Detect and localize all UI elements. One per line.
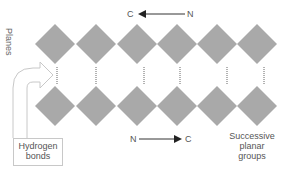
bottom-diamond-6: [237, 86, 277, 126]
arrow-right-head: [174, 135, 182, 143]
planes-label: Planes: [4, 28, 14, 56]
top-arrow-n-label: N: [187, 9, 194, 19]
successive-label-line2: planar: [222, 141, 282, 151]
hydrogen-bonds-label: Hydrogen bonds: [13, 141, 63, 161]
hydrogen-label-line2: bonds: [13, 151, 63, 161]
hydrogen-label-line1: Hydrogen: [13, 141, 63, 151]
successive-label-line3: groups: [222, 151, 282, 161]
top-diamond-6: [237, 24, 277, 64]
top-diamond-5: [197, 24, 237, 64]
bottom-diamond-1: [35, 86, 75, 126]
top-arrow-c-label: C: [127, 9, 134, 19]
top-diamond-3: [117, 24, 157, 64]
top-diamond-4: [157, 24, 197, 64]
top-row-planar-groups: [35, 24, 277, 64]
bottom-row-planar-groups: [35, 86, 277, 126]
bottom-diamond-2: [76, 86, 116, 126]
bottom-diamond-5: [197, 86, 237, 126]
top-diamond-1: [35, 24, 75, 64]
arrow-left-head: [138, 10, 146, 18]
bottom-diamond-3: [117, 86, 157, 126]
hydrogen-bond-lines: [57, 67, 264, 85]
bottom-arrow-c-label: C: [185, 134, 192, 144]
top-direction-arrow: [138, 10, 185, 18]
bottom-direction-arrow: [139, 135, 182, 143]
successive-planar-groups-label: Successive planar groups: [222, 131, 282, 161]
top-diamond-2: [76, 24, 116, 64]
successive-label-line1: Successive: [222, 131, 282, 141]
bottom-diamond-4: [157, 86, 197, 126]
bottom-arrow-n-label: N: [130, 134, 137, 144]
